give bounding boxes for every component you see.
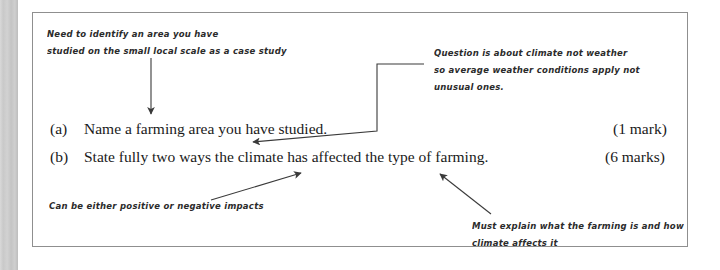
annotation-climate-not-weather-line3: unusual ones.: [434, 79, 640, 96]
question-b-text: State fully two ways the climate has aff…: [84, 148, 488, 165]
question-b-marks: (6 marks): [605, 148, 665, 166]
annotation-explain-farming: Must explain what the farming is and how…: [472, 218, 684, 252]
question-a-text: Name a farming area you have studied.: [84, 120, 327, 137]
annotation-positive-negative: Can be either positive or negative impac…: [49, 198, 264, 215]
annotation-identify-area: Need to identify an area you have studie…: [47, 26, 287, 60]
question-a-marks: (1 mark): [613, 120, 667, 138]
annotation-explain-farming-line1: Must explain what the farming is and how: [472, 218, 684, 235]
annotation-climate-not-weather: Question is about climate not weather so…: [434, 45, 640, 95]
annotation-identify-area-line1: Need to identify an area you have: [47, 26, 287, 43]
annotation-climate-not-weather-line1: Question is about climate not weather: [434, 45, 640, 62]
exam-question-page: (a)Name a farming area you have studied.…: [0, 0, 720, 270]
annotation-positive-negative-line1: Can be either positive or negative impac…: [49, 198, 264, 215]
annotation-identify-area-line2: studied on the small local scale as a ca…: [47, 43, 287, 60]
question-a: (a)Name a farming area you have studied.: [50, 120, 327, 138]
annotation-explain-farming-line2: climate affects it: [472, 235, 684, 252]
scan-edge-shadow: [0, 0, 18, 270]
question-b: (b)State fully two ways the climate has …: [50, 148, 488, 166]
question-a-label: (a): [50, 120, 84, 138]
question-b-label: (b): [50, 148, 84, 166]
annotation-climate-not-weather-line2: so average weather conditions apply not: [434, 62, 640, 79]
